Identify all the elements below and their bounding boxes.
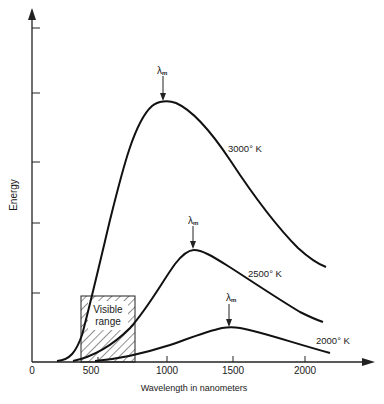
curve-2000k-label: 2000° K xyxy=(316,335,351,346)
x-tick-500: 500 xyxy=(83,365,100,376)
lambda-max-label-2000k: λm xyxy=(226,292,236,303)
y-axis-label: Energy xyxy=(8,179,19,211)
curve-2500k-label: 2500° K xyxy=(248,268,283,279)
blackbody-radiation-chart: Visible range Energy 0 500 1000 1500 200… xyxy=(0,0,384,404)
curve-3000k-label: 3000° K xyxy=(228,143,263,154)
x-tick-2000: 2000 xyxy=(294,365,317,376)
x-axis-arrow-icon xyxy=(362,358,375,366)
lambda-max-label-2500k: λm xyxy=(188,215,198,226)
y-axis-arrow-icon xyxy=(28,8,36,20)
visible-range-label-line1: Visible xyxy=(93,304,123,315)
visible-range-label-line2: range xyxy=(95,316,121,327)
x-axis-label: Wavelength in nanometers xyxy=(141,383,248,393)
x-tick-0: 0 xyxy=(29,365,35,376)
x-axis: 0 500 1000 1500 2000 Wavelength in nanom… xyxy=(29,356,375,393)
lambda-max-label-3000k: λm xyxy=(157,65,167,76)
y-axis: Energy xyxy=(8,8,40,362)
x-tick-1000: 1000 xyxy=(156,365,179,376)
x-tick-1500: 1500 xyxy=(222,365,245,376)
